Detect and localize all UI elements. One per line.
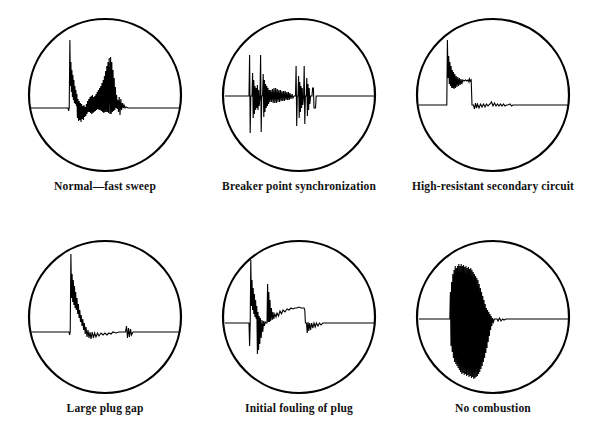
panel-caption: Breaker point synchronization	[200, 180, 398, 192]
panel-breaker-point-synchronization: Breaker point synchronization	[200, 0, 398, 222]
scope-trace-high-resistant-secondary-circuit	[394, 0, 592, 188]
panel-large-plug-gap: Large plug gap	[6, 222, 204, 444]
scope-waveform-path	[31, 254, 180, 339]
scope-display-large-plug-gap	[6, 222, 204, 410]
scope-display-breaker-point-synchronization	[200, 0, 398, 188]
panel-caption: Initial fouling of plug	[200, 402, 398, 414]
panel-initial-fouling-of-plug: Initial fouling of plug	[200, 222, 398, 444]
scope-waveform-path	[225, 260, 374, 354]
scope-display-normal-fast-sweep	[6, 0, 204, 188]
scope-waveform-path	[31, 40, 180, 122]
scope-display-high-resistant-secondary-circuit	[394, 0, 592, 188]
oscilloscope-pattern-figure: Normal—fast sweep Breaker point synchron…	[0, 0, 594, 444]
scope-bezel-circle	[223, 241, 375, 393]
panel-caption: No combustion	[394, 402, 592, 414]
scope-bezel-circle	[29, 241, 181, 393]
panel-no-combustion: No combustion	[394, 222, 592, 444]
panel-caption: Normal—fast sweep	[6, 180, 204, 192]
scope-display-initial-fouling-of-plug	[200, 222, 398, 410]
scope-trace-normal-fast-sweep	[6, 0, 204, 188]
scope-trace-initial-fouling-of-plug	[200, 222, 398, 410]
scope-trace-large-plug-gap	[6, 222, 204, 410]
panel-high-resistant-secondary-circuit: High-resistant secondary circuit	[394, 0, 592, 222]
scope-bezel-circle	[417, 19, 569, 171]
scope-waveform-path	[225, 55, 374, 133]
panel-normal-fast-sweep: Normal—fast sweep	[6, 0, 204, 222]
scope-waveform-path	[419, 40, 568, 109]
scope-trace-no-combustion	[394, 222, 592, 410]
scope-bezel-circle	[417, 241, 569, 393]
scope-waveform-path	[419, 264, 568, 379]
scope-display-no-combustion	[394, 222, 592, 410]
panel-caption: Large plug gap	[6, 402, 204, 414]
panel-caption: High-resistant secondary circuit	[394, 180, 592, 192]
scope-trace-breaker-point-synchronization	[200, 0, 398, 188]
